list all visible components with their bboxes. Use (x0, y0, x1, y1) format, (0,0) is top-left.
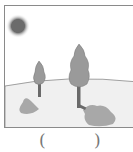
scene-illustration (5, 6, 133, 128)
open-paren: ( (39, 130, 46, 150)
left-tree-crown (34, 61, 46, 85)
close-paren: ) (94, 130, 101, 150)
illustration-frame (4, 5, 133, 128)
sun-icon (6, 14, 30, 38)
answer-blank[interactable]: ( ) (0, 130, 133, 150)
right-tree-crown (69, 44, 89, 87)
